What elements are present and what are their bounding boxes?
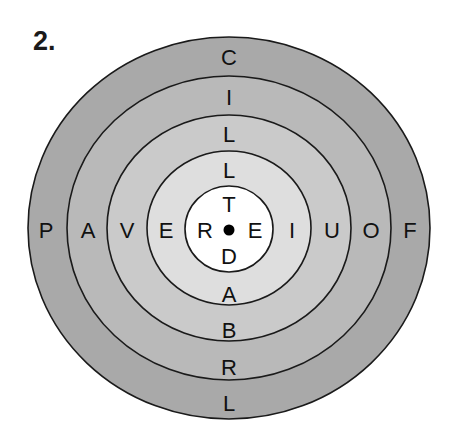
target-word-puzzle: C I L L T P A V E R F O U I E L R B A D [0, 0, 452, 438]
letter-right-3: U [324, 218, 340, 243]
letter-top-2: I [226, 85, 232, 110]
letter-top-1: C [221, 45, 237, 70]
letter-bottom-2: R [221, 355, 237, 380]
letter-top-5: T [222, 192, 235, 217]
letter-left-2: A [81, 218, 96, 243]
letter-bottom-3: B [222, 318, 237, 343]
letter-bottom-1: L [223, 391, 235, 416]
letter-left-5: R [197, 218, 213, 243]
letter-left-3: V [120, 218, 135, 243]
letter-right-5: E [248, 218, 263, 243]
letter-right-1: F [403, 218, 416, 243]
letter-left-4: E [159, 218, 174, 243]
bullseye-dot [224, 225, 235, 236]
letter-left-1: P [39, 218, 54, 243]
letter-right-4: I [289, 218, 295, 243]
letter-bottom-5: D [221, 244, 237, 269]
letter-right-2: O [362, 218, 379, 243]
letter-top-4: L [223, 158, 235, 183]
letter-top-3: L [223, 122, 235, 147]
letter-bottom-4: A [222, 282, 237, 307]
